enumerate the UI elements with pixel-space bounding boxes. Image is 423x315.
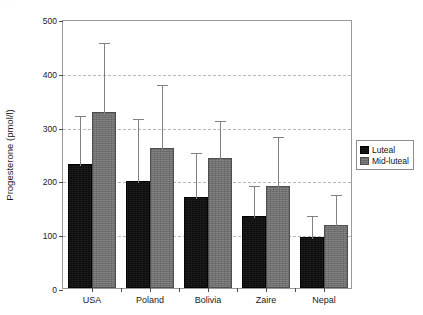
chart-figure: ··· Progesterone (pmol/l) 01002003004005… xyxy=(0,0,423,315)
y-tick-mark xyxy=(59,182,63,183)
x-tick-label-usa: USA xyxy=(83,295,102,305)
x-tick-label-poland: Poland xyxy=(136,295,164,305)
x-tick-mark xyxy=(150,288,151,292)
x-axis-divider-tick xyxy=(179,288,180,292)
plot-area: 0100200300400500 USAPolandBoliviaZaireNe… xyxy=(62,20,352,289)
error-bar-line xyxy=(162,85,163,150)
bar-midluteal xyxy=(266,186,290,288)
x-axis-divider-tick xyxy=(295,288,296,292)
bar-group xyxy=(300,21,348,288)
y-tick-label: 300 xyxy=(43,124,57,134)
bar-luteal xyxy=(242,216,266,288)
bar-luteal xyxy=(126,181,150,288)
error-bar-line xyxy=(104,43,105,114)
bar-group xyxy=(184,21,232,288)
x-axis-divider-tick xyxy=(237,288,238,292)
y-tick-label: 200 xyxy=(43,177,57,187)
x-tick-label-zaire: Zaire xyxy=(256,295,277,305)
error-bar-cap xyxy=(249,186,260,187)
y-tick-mark xyxy=(59,290,63,291)
legend-swatch-icon xyxy=(360,146,369,154)
bar-group xyxy=(126,21,174,288)
y-tick-mark xyxy=(59,129,63,130)
error-bar-line xyxy=(196,153,197,199)
x-tick-label-bolivia: Bolivia xyxy=(195,295,222,305)
legend-swatch-icon xyxy=(360,157,369,165)
error-bar-cap xyxy=(157,85,168,86)
y-tick-mark xyxy=(59,236,63,237)
bar-midluteal xyxy=(324,225,348,288)
x-tick-mark xyxy=(92,288,93,292)
y-tick-mark xyxy=(59,75,63,76)
legend-label: Luteal xyxy=(372,145,395,155)
bar-luteal xyxy=(184,197,208,288)
error-bar-cap xyxy=(331,195,342,196)
bar-midluteal xyxy=(150,148,174,288)
x-tick-mark xyxy=(324,288,325,292)
error-bar-line xyxy=(80,116,81,166)
x-tick-label-nepal: Nepal xyxy=(312,295,336,305)
legend-item: Luteal xyxy=(360,144,409,155)
y-tick-label: 400 xyxy=(43,70,57,80)
bar-luteal xyxy=(68,164,92,288)
error-bar-cap xyxy=(75,116,86,117)
legend-label: Mid-luteal xyxy=(372,156,409,166)
x-tick-mark xyxy=(266,288,267,292)
y-tick-label: 100 xyxy=(43,231,57,241)
error-bar-cap xyxy=(273,137,284,138)
y-tick-label: 500 xyxy=(43,16,57,26)
bar-luteal xyxy=(300,237,324,288)
y-axis-title: Progesterone (pmol/l) xyxy=(4,109,15,200)
error-bar-line xyxy=(312,216,313,239)
bar-group xyxy=(242,21,290,288)
legend-item: Mid-luteal xyxy=(360,155,409,166)
y-tick-mark xyxy=(59,21,63,22)
bar-group xyxy=(68,21,116,288)
y-tick-label: 0 xyxy=(52,285,57,295)
scan-artifact: ··· xyxy=(4,2,14,9)
chart-legend: LutealMid-luteal xyxy=(356,140,414,170)
error-bar-cap xyxy=(307,216,318,217)
error-bar-line xyxy=(336,195,337,227)
error-bar-line xyxy=(254,186,255,218)
error-bar-line xyxy=(138,119,139,183)
bar-midluteal xyxy=(92,112,116,288)
error-bar-cap xyxy=(99,43,110,44)
bar-midluteal xyxy=(208,158,232,288)
error-bar-line xyxy=(278,137,279,188)
x-axis-divider-tick xyxy=(121,288,122,292)
error-bar-cap xyxy=(133,119,144,120)
error-bar-cap xyxy=(215,121,226,122)
error-bar-cap xyxy=(191,153,202,154)
x-tick-mark xyxy=(208,288,209,292)
error-bar-line xyxy=(220,121,221,160)
